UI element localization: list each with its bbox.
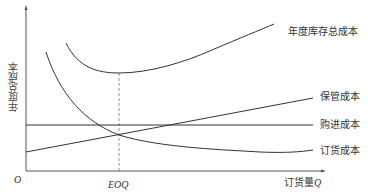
eoq-label: EOQ <box>108 180 129 190</box>
x-axis-arrow-icon <box>321 170 326 173</box>
label-purchase-cost: 购进成本 <box>320 120 360 130</box>
y-axis-arrow-icon <box>25 5 28 10</box>
origin-label: O <box>14 175 21 185</box>
label-holding-cost: 保管成本 <box>320 92 360 102</box>
ordering-cost-curve <box>46 52 313 152</box>
x-axis-label-text: 订货量 <box>284 177 314 188</box>
total-cost-curve <box>66 24 274 73</box>
label-ordering-cost: 订货成本 <box>320 146 360 156</box>
y-axis-label: 年度总成本 <box>6 62 21 112</box>
x-axis-label: 订货量Q <box>284 178 321 188</box>
x-axis-variable: Q <box>314 177 321 188</box>
label-total-cost: 年度库存总成本 <box>288 27 358 37</box>
